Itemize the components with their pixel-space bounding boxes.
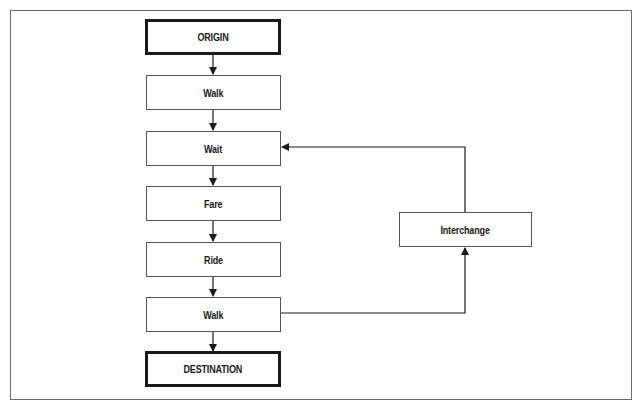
node-interchange: Interchange (399, 212, 532, 247)
node-fare: Fare (146, 186, 281, 221)
arrow-interchange-to-wait (282, 147, 465, 212)
arrow-walk-to-interchange (281, 248, 465, 313)
node-label: Fare (204, 198, 222, 210)
node-origin: ORIGIN (145, 19, 281, 55)
node-wait: Wait (146, 131, 281, 166)
node-destination: DESTINATION (145, 351, 281, 387)
node-walk-2: Walk (146, 297, 281, 332)
node-label: Walk (203, 309, 223, 321)
node-label: Wait (204, 143, 222, 155)
node-label: Interchange (441, 224, 490, 236)
node-label: DESTINATION (184, 363, 243, 375)
node-walk: Walk (146, 75, 281, 110)
node-label: Walk (203, 87, 223, 99)
node-ride: Ride (146, 242, 281, 277)
connector-layer (0, 0, 641, 410)
node-label: Ride (204, 254, 223, 266)
node-label: ORIGIN (197, 31, 228, 43)
